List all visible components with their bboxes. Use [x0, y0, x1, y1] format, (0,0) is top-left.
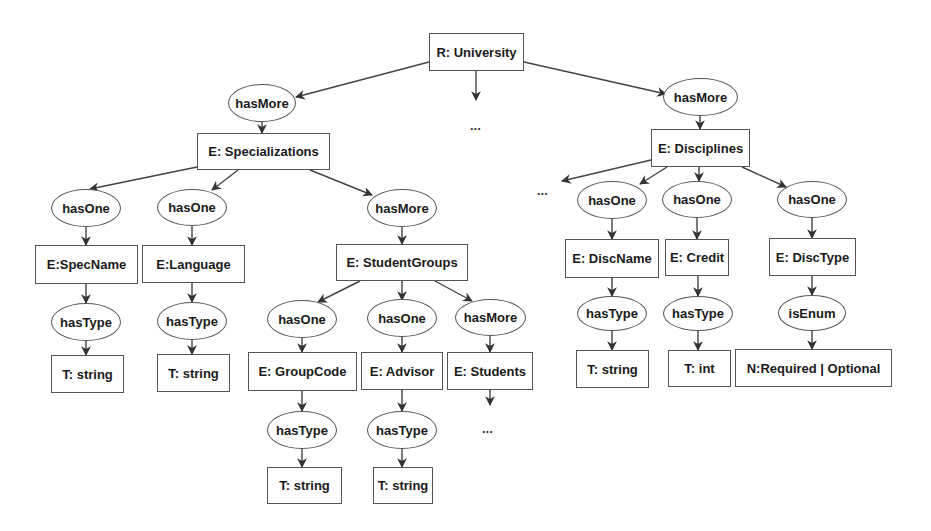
relation-hasone-specname: hasOne: [51, 189, 121, 227]
entity-students: E: Students: [447, 352, 533, 390]
type-advisor-string: T: string: [373, 467, 433, 504]
entity-disctype: E: DiscType: [769, 238, 856, 276]
relation-hastype-advisor: hasType: [367, 411, 437, 449]
relation-hasmore-disciplines: hasMore: [663, 78, 738, 116]
relation-hastype-groupcode: hasType: [267, 411, 337, 449]
enum-disctype-values: N:Required | Optional: [735, 349, 892, 387]
relation-hasone-discname: hasOne: [577, 181, 647, 219]
relation-hastype-credit: hasType: [663, 296, 733, 331]
type-groupcode-string: T: string: [267, 467, 342, 504]
relation-hastype-specname: hasType: [51, 303, 121, 341]
type-credit-int: T: int: [668, 350, 731, 387]
relation-hasone-credit: hasOne: [662, 181, 732, 218]
relation-hasmore-specializations: hasMore: [228, 84, 296, 122]
entity-credit: E: Credit: [665, 239, 729, 276]
entity-language: E:Language: [142, 245, 245, 283]
entity-specializations: E: Specializations: [197, 133, 330, 170]
relation-hasone-language: hasOne: [157, 189, 227, 226]
type-discname-string: T: string: [576, 350, 649, 388]
relation-hasone-disctype: hasOne: [777, 181, 847, 218]
entity-studentgroups: E: StudentGroups: [336, 244, 468, 281]
students-more-ellipsis: ...: [482, 421, 493, 436]
entity-specname: E:SpecName: [35, 245, 138, 284]
relation-isenum-disctype: isEnum: [778, 295, 846, 331]
disciplines-more-ellipsis: ...: [537, 183, 548, 198]
type-specname-string: T: string: [51, 355, 124, 393]
entity-disciplines: E: Disciplines: [651, 129, 750, 167]
relation-hasmore-students: hasMore: [455, 299, 526, 336]
relation-hasone-groupcode: hasOne: [267, 300, 337, 338]
relation-hasone-advisor: hasOne: [367, 299, 437, 337]
relation-hasmore-studentgroups: hasMore: [367, 189, 437, 227]
relation-hastype-discname: hasType: [577, 296, 647, 331]
relation-hastype-language: hasType: [157, 302, 227, 340]
root-node-university: R: University: [429, 33, 524, 71]
root-more-ellipsis: ...: [470, 118, 481, 133]
type-language-string: T: string: [157, 354, 230, 392]
entity-advisor: E: Advisor: [361, 352, 443, 390]
entity-groupcode: E: GroupCode: [248, 352, 357, 391]
entity-discname: E: DiscName: [565, 239, 659, 278]
